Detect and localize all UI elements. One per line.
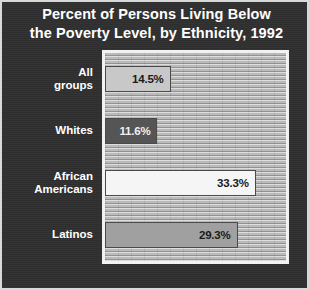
bar-latinos: 29.3% <box>105 222 238 248</box>
plot-area: 14.5%11.6%33.3%29.3% <box>102 50 289 264</box>
category-label-line: Americans <box>1 183 93 197</box>
category-label-all-groups: Allgroups <box>1 66 93 93</box>
category-label-line: groups <box>1 79 93 93</box>
bar-row: 14.5% <box>105 66 286 92</box>
poverty-bar-chart: Percent of Persons Living Below the Pove… <box>0 0 309 290</box>
bar-row: 29.3% <box>105 222 286 248</box>
bar-value-label: 11.6% <box>120 125 157 137</box>
chart-title-line-1: Percent of Persons Living Below <box>2 5 309 24</box>
bar-row: 33.3% <box>105 170 286 196</box>
chart-title-line-2: the Poverty Level, by Ethnicity, 1992 <box>2 24 309 43</box>
category-label-line: All <box>1 66 93 80</box>
bar-african-americans: 33.3% <box>105 170 256 196</box>
bar-all-groups: 14.5% <box>105 66 171 92</box>
category-label-african-americans: AfricanAmericans <box>1 170 93 197</box>
category-label-line: Latinos <box>1 228 93 242</box>
bar-row: 11.6% <box>105 118 286 144</box>
bar-value-label: 29.3% <box>199 229 237 241</box>
bar-whites: 11.6% <box>105 118 157 144</box>
bar-value-label: 33.3% <box>217 177 255 189</box>
category-label-line: African <box>1 170 93 184</box>
bar-value-label: 14.5% <box>132 73 170 85</box>
plot-inner: 14.5%11.6%33.3%29.3% <box>105 53 286 261</box>
category-label-line: Whites <box>1 124 93 138</box>
category-label-latinos: Latinos <box>1 228 93 242</box>
chart-title: Percent of Persons Living Below the Pove… <box>2 5 309 43</box>
category-label-whites: Whites <box>1 124 93 138</box>
